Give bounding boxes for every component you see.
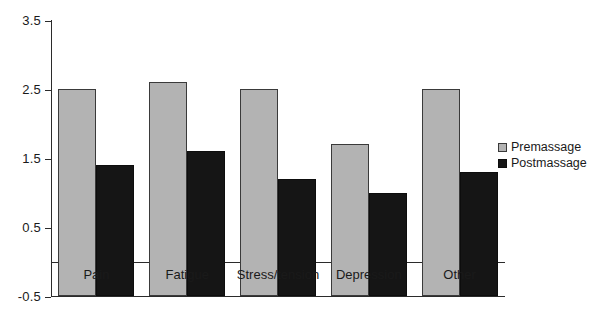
bar-premassage [58, 89, 96, 296]
legend-item-postmassage: Postmassage [498, 155, 587, 171]
bar-chart: 3.52.51.50.5-0.5 PainFatigueStress/tensi… [0, 0, 593, 311]
category-label: Pain [51, 268, 142, 282]
bar-premassage [240, 89, 278, 296]
category-label: Other [414, 268, 505, 282]
plot-area [51, 21, 505, 296]
category-label: Depression [323, 268, 414, 282]
bar-group [331, 55, 407, 296]
legend-label-premassage: Premassage [511, 139, 581, 155]
category-label: Fatigue [142, 268, 233, 282]
bar-group [240, 55, 316, 296]
y-tick-label: -0.5 [0, 290, 41, 303]
y-tick-label: 3.5 [0, 14, 41, 27]
y-tick-mark [45, 297, 51, 298]
x-axis-bottom-line [51, 296, 505, 297]
category-label: Stress/tension [233, 268, 324, 282]
bar-group [149, 55, 225, 296]
bar-group [422, 55, 498, 296]
legend-swatch-postmassage-icon [498, 159, 507, 168]
legend-label-postmassage: Postmassage [511, 155, 587, 171]
chart-legend: Premassage Postmassage [498, 139, 587, 171]
bar-premassage [149, 82, 187, 296]
bar-premassage [422, 89, 460, 296]
y-tick-label: 0.5 [0, 221, 41, 234]
legend-swatch-premassage-icon [498, 143, 507, 152]
bar-group [58, 55, 134, 296]
y-tick-label: 1.5 [0, 152, 41, 165]
y-tick-label: 2.5 [0, 83, 41, 96]
legend-item-premassage: Premassage [498, 139, 587, 155]
